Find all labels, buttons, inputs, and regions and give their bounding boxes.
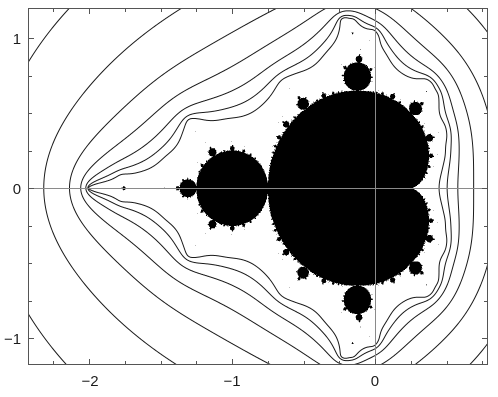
y-axis-tick-label-neg-one: −1 — [4, 331, 21, 346]
mandelbrot-figure: −2 −1 0 1 0 −1 — [0, 0, 498, 397]
x-axis-tick-label-neg1: −1 — [223, 373, 240, 388]
x-axis-tick-label-zero: 0 — [371, 373, 379, 388]
y-axis-tick-label-zero: 0 — [13, 181, 21, 196]
y-axis-tick-label-one: 1 — [13, 31, 21, 46]
x-axis-tick-label-neg2: −2 — [81, 373, 98, 388]
mandelbrot-plot-canvas — [0, 0, 498, 397]
